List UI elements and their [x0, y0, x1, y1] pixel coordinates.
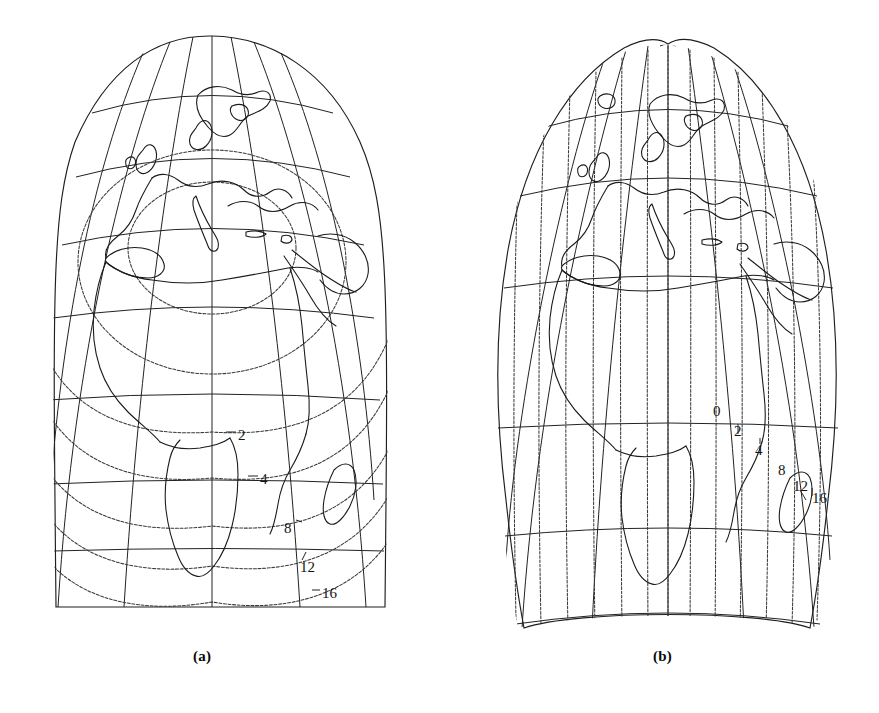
panel-a-coastlines [93, 87, 368, 577]
figure-svg: 2 4 8 12 16 [0, 0, 879, 713]
panel-b-isolines [514, 46, 821, 636]
panel-a-parallels [48, 96, 384, 552]
scan-edge-artifact [0, 703, 879, 713]
isolabel-b-0: 0 [713, 403, 721, 419]
isolabel-b-12: 12 [793, 478, 808, 494]
isolabel-a-12: 12 [300, 559, 315, 575]
panel-a-boundary [54, 36, 386, 607]
isolabel-a-16: 16 [322, 585, 338, 601]
panel-b-caption: (b) [653, 648, 672, 665]
panel-a: 2 4 8 12 16 [22, 36, 404, 607]
isolabel-a-8: 8 [284, 520, 292, 536]
panel-b: 0 2 4 8 12 16 [498, 40, 838, 636]
isolabel-b-8: 8 [778, 462, 786, 478]
isolabel-b-4: 4 [755, 442, 763, 458]
panel-a-caption: (a) [193, 648, 211, 665]
figure-container: 2 4 8 12 16 [0, 0, 879, 713]
isolabel-a-2: 2 [238, 427, 246, 443]
isolabel-b-2: 2 [734, 423, 742, 439]
isolabel-b-16: 16 [812, 490, 828, 506]
panel-a-isolines [22, 150, 404, 606]
panel-b-coastlines [549, 94, 824, 585]
isolabel-a-4: 4 [260, 471, 268, 487]
